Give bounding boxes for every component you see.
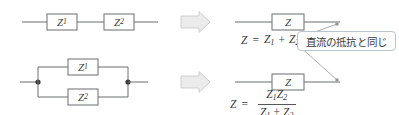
label-subscript: 2 (120, 18, 124, 26)
fraction-denominator: Z1+Z2 (258, 104, 296, 115)
equation-equals: = (241, 99, 248, 111)
transform-arrow-series (181, 12, 210, 33)
component-label-series-z2: Z2 (104, 14, 134, 30)
equation-equals: = (252, 35, 259, 47)
callout-box: 直流の抵抗と同じ (297, 31, 396, 51)
transform-arrow-parallel (181, 72, 210, 93)
label-base: Z (285, 17, 291, 28)
equation-lhs: Z (230, 99, 236, 111)
label-base: Z (285, 77, 291, 88)
equation-parallel: Z = Z1Z2 Z1+Z2 (230, 88, 296, 115)
equation-series: Z = Z1 + Z2 (241, 34, 300, 47)
label-subscript: 1 (63, 18, 67, 26)
equation-fraction: Z1Z2 Z1+Z2 (258, 88, 296, 115)
component-label-series-z1: Z1 (47, 14, 77, 30)
fraction-numerator: Z1Z2 (264, 88, 289, 104)
equation-lhs: Z (241, 35, 247, 47)
label-subscript: 2 (84, 93, 88, 101)
leader-endpoint-bottom (336, 79, 339, 82)
component-label-parallel-z1: Z1 (68, 59, 98, 75)
series-circuit-left (22, 14, 158, 30)
equation-operator: + (278, 35, 285, 47)
component-label-parallel-z2: Z2 (68, 89, 98, 105)
equation-term-1: Z1 (264, 34, 275, 47)
figure-canvas: Z1 Z2 Z Z = Z1 + Z2 Z1 Z2 Z Z = Z1Z2 Z1+… (0, 0, 399, 115)
callout-text: 直流の抵抗と同じ (306, 34, 388, 49)
label-subscript: 1 (84, 63, 88, 71)
component-label-series-result-z: Z (272, 14, 304, 30)
leader-endpoint-top (336, 23, 339, 26)
